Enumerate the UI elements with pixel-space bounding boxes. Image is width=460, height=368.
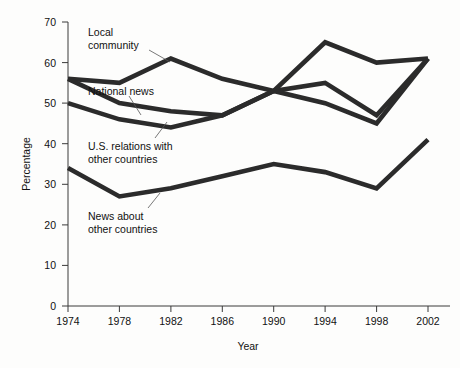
- x-tick-label: 1990: [262, 315, 286, 327]
- y-tick-label: 70: [44, 16, 56, 28]
- y-axis-tick-labels: 70 60 50 40 30 20 10 0: [44, 16, 56, 312]
- series-label-local-community-line1: Local: [88, 26, 113, 38]
- x-tick-label: 1974: [56, 315, 80, 327]
- x-axis-tick-labels: 1974 1978 1982 1986 1990 1994 1998 2002: [56, 315, 440, 327]
- line-chart-figure: 70 60 50 40 30 20 10 0 1974 1978 1982 19…: [0, 0, 460, 368]
- x-tick-label: 1978: [108, 315, 132, 327]
- series-annotations: Local community National news U.S. relat…: [88, 26, 173, 235]
- series-label-news-other-line1: News about: [88, 210, 144, 222]
- x-tick-label: 1998: [365, 315, 389, 327]
- series-label-us-relations-line2: other countries: [88, 153, 157, 165]
- x-axis-ticks: [68, 306, 428, 312]
- y-tick-label: 30: [44, 178, 56, 190]
- y-tick-label: 20: [44, 219, 56, 231]
- y-tick-label: 40: [44, 138, 56, 150]
- series-label-news-other-line2: other countries: [88, 223, 157, 235]
- y-axis-title: Percentage: [20, 137, 32, 191]
- data-series-group: [68, 42, 428, 196]
- y-tick-label: 0: [50, 300, 56, 312]
- x-tick-label: 2002: [416, 315, 440, 327]
- x-tick-label: 1986: [211, 315, 235, 327]
- leader-line-news-other: [148, 193, 160, 208]
- x-tick-label: 1982: [159, 315, 183, 327]
- leader-line-local-community: [149, 50, 170, 62]
- x-axis-title: Year: [237, 340, 259, 352]
- y-axis-ticks: [62, 22, 68, 306]
- series-label-local-community-line2: community: [88, 39, 140, 51]
- y-tick-label: 50: [44, 97, 56, 109]
- y-tick-label: 10: [44, 259, 56, 271]
- chart-canvas: 70 60 50 40 30 20 10 0 1974 1978 1982 19…: [0, 0, 460, 368]
- series-label-national-news: National news: [88, 85, 154, 97]
- x-tick-label: 1994: [313, 315, 337, 327]
- series-label-us-relations-line1: U.S. relations with: [88, 140, 173, 152]
- y-tick-label: 60: [44, 57, 56, 69]
